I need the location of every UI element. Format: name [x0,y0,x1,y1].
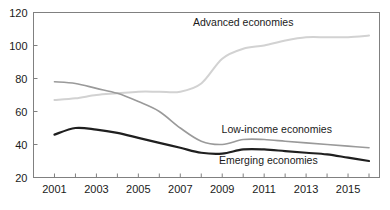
x-axis-tick-label: 2001 [42,183,66,195]
x-axis-tick-label: 2007 [168,183,192,195]
y-axis-tick-label: 80 [15,73,27,85]
series-label: Advanced economies [193,16,293,28]
y-axis-tick-label: 100 [9,40,27,52]
chart-screenshot: 20406080100120 2001200320052007200920112… [0,0,390,210]
x-axis-tick-label: 2015 [336,183,360,195]
y-axis-tick-label: 20 [15,172,27,184]
x-axis-tick-label: 2005 [126,183,150,195]
line-chart: 20406080100120 2001200320052007200920112… [0,0,390,210]
x-axis-tick-label: 2003 [84,183,108,195]
y-axis-tick-label: 60 [15,106,27,118]
series-label: Low-income economies [222,123,332,135]
chart-background [0,0,390,210]
y-axis-tick-label: 40 [15,139,27,151]
x-axis-tick-label: 2011 [252,183,276,195]
x-axis-tick-label: 2009 [210,183,234,195]
series-label: Emerging economies [219,154,318,166]
y-axis-tick-label: 120 [9,7,27,19]
x-axis-tick-label: 2013 [294,183,318,195]
